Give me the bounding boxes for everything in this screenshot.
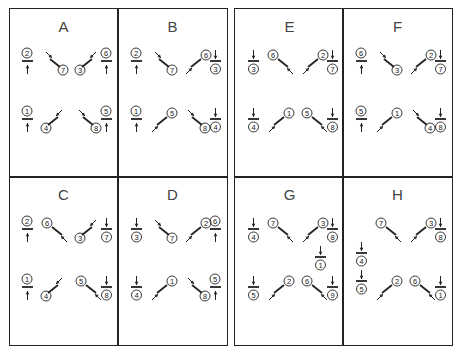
marker-fs-up-2: 2 bbox=[269, 276, 294, 300]
marker-fs-down-3: 3 bbox=[75, 52, 96, 75]
number-label: 8 bbox=[438, 233, 442, 242]
number-label: 5 bbox=[359, 285, 363, 294]
bar bbox=[274, 285, 284, 293]
bar bbox=[312, 285, 322, 293]
marker-h-down-8: 8 bbox=[327, 108, 338, 132]
marker-bs-up-7: 7 bbox=[376, 218, 401, 242]
arrow-head-icon bbox=[360, 248, 364, 251]
number-label: 4 bbox=[359, 257, 363, 266]
arrow-head-icon bbox=[439, 224, 443, 227]
marker-h-down-4: 4 bbox=[210, 108, 221, 132]
bar bbox=[50, 59, 60, 67]
number-label: 6 bbox=[45, 219, 49, 228]
number-label: 5 bbox=[251, 291, 255, 300]
number-label: 1 bbox=[134, 107, 138, 116]
marker-bs-down-8: 8 bbox=[188, 278, 210, 301]
number-label: 3 bbox=[78, 66, 82, 75]
number-label: 1 bbox=[395, 109, 399, 118]
number-label: 7 bbox=[104, 233, 108, 242]
marker-fs-up-3: 3 bbox=[303, 218, 328, 242]
arrow-head-icon bbox=[331, 56, 335, 59]
marker-bs-up-6: 6 bbox=[302, 276, 327, 300]
panel-h: H73845261 bbox=[343, 176, 452, 345]
number-label: 8 bbox=[94, 124, 98, 133]
bar bbox=[86, 285, 96, 293]
marker-h-up-2: 2 bbox=[22, 48, 33, 74]
number-label: 2 bbox=[395, 277, 399, 286]
bar bbox=[308, 227, 318, 235]
panel-diagram: 27361485 bbox=[9, 8, 118, 177]
marker-h-down-4: 4 bbox=[248, 108, 259, 132]
number-label: 3 bbox=[321, 219, 325, 228]
marker-fs-down-3: 3 bbox=[75, 220, 96, 243]
bar bbox=[157, 117, 167, 125]
bar bbox=[278, 227, 288, 235]
number-label: 5 bbox=[170, 109, 174, 118]
marker-bs-down-4: 4 bbox=[413, 110, 435, 133]
number-label: 4 bbox=[213, 123, 217, 132]
number-label: 5 bbox=[213, 275, 217, 284]
marker-h-up-1: 1 bbox=[131, 106, 142, 132]
panel-diagram: 26371458 bbox=[9, 176, 118, 345]
marker-h-down-3: 3 bbox=[210, 50, 221, 74]
bar bbox=[417, 117, 427, 125]
number-label: 8 bbox=[203, 124, 207, 133]
bar bbox=[52, 227, 62, 235]
bar bbox=[382, 285, 392, 293]
marker-fs-up-2: 2 bbox=[186, 218, 211, 242]
arrow-head-icon bbox=[439, 282, 443, 285]
marker-fs-up-1: 1 bbox=[269, 108, 294, 132]
marker-h-up-6: 6 bbox=[356, 48, 367, 74]
bar bbox=[82, 227, 92, 235]
number-label: 3 bbox=[395, 66, 399, 75]
marker-h-down-3: 3 bbox=[131, 218, 142, 242]
arrow-head-icon bbox=[331, 224, 335, 227]
marker-bs-down-3: 3 bbox=[380, 52, 402, 75]
arrow-head-icon bbox=[135, 65, 139, 68]
number-label: 3 bbox=[251, 65, 255, 74]
marker-h-down-4: 4 bbox=[131, 276, 142, 300]
marker-bs-down-7: 7 bbox=[155, 220, 177, 243]
number-label: 1 bbox=[25, 107, 29, 116]
number-label: 7 bbox=[438, 65, 442, 74]
number-label: 4 bbox=[44, 124, 48, 133]
bar bbox=[48, 117, 58, 125]
bar bbox=[274, 117, 284, 125]
number-label: 4 bbox=[251, 123, 255, 132]
marker-h-up-2: 2 bbox=[22, 216, 33, 242]
marker-fs-up-2: 2 bbox=[411, 50, 436, 74]
arrow-head-icon bbox=[105, 224, 109, 227]
number-label: 4 bbox=[44, 292, 48, 301]
number-label: 1 bbox=[438, 291, 442, 300]
bar bbox=[308, 59, 318, 67]
bar bbox=[192, 117, 202, 125]
number-label: 2 bbox=[321, 51, 325, 60]
arrow-head-icon bbox=[319, 252, 323, 255]
number-label: 8 bbox=[438, 123, 442, 132]
arrow-head-icon bbox=[135, 224, 139, 227]
marker-fs-up-6: 6 bbox=[186, 50, 211, 74]
arrow-head-icon bbox=[26, 123, 30, 126]
marker-h-down-7: 7 bbox=[101, 218, 112, 242]
bar bbox=[159, 59, 169, 67]
marker-h-up-5: 5 bbox=[210, 274, 221, 300]
number-label: 1 bbox=[318, 261, 322, 270]
bar bbox=[192, 285, 202, 293]
number-label: 2 bbox=[204, 219, 208, 228]
arrow-head-icon bbox=[26, 65, 30, 68]
arrow-head-icon bbox=[214, 291, 218, 294]
panel-g: G473815269 bbox=[235, 176, 344, 345]
bar bbox=[48, 285, 58, 293]
number-label: 7 bbox=[271, 219, 275, 228]
bar bbox=[386, 227, 396, 235]
bar bbox=[382, 117, 392, 125]
bar bbox=[191, 227, 201, 235]
marker-bs-up-6: 6 bbox=[42, 218, 67, 242]
panel-diagram: 63275148 bbox=[343, 8, 452, 177]
arrow-head-icon bbox=[135, 282, 139, 285]
number-label: 7 bbox=[379, 219, 383, 228]
number-label: 6 bbox=[204, 51, 208, 60]
marker-h-down-8: 8 bbox=[101, 276, 112, 300]
arrow-head-icon bbox=[252, 224, 256, 227]
marker-bs-up-5: 5 bbox=[302, 108, 327, 132]
